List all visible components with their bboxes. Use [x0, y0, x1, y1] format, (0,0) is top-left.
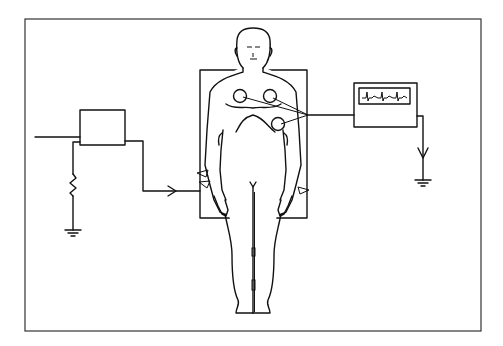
- source-circuit: [35, 110, 200, 236]
- ecg-waveform-icon: [362, 92, 407, 101]
- diagram-figure: [0, 0, 503, 346]
- resistor-icon: [70, 174, 76, 196]
- patient-figure: [197, 28, 309, 314]
- source-box: [80, 110, 125, 145]
- ground-icon: [415, 180, 431, 186]
- ecg-monitor: [354, 83, 431, 186]
- ground-icon: [65, 230, 81, 236]
